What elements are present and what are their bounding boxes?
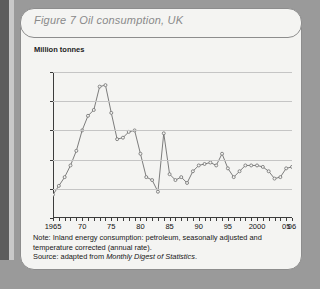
x-tick-label: 2000 [249, 222, 266, 231]
x-tick-label: 1965 [45, 222, 62, 231]
x-tick-mark [146, 218, 147, 221]
x-tick-mark [222, 218, 223, 221]
gridline [53, 101, 292, 102]
x-tick-mark [88, 218, 89, 221]
x-tick-mark [205, 218, 206, 221]
x-tick-label: 95 [224, 222, 232, 231]
oil-consumption-line-series [53, 72, 292, 218]
y-tick-mark [50, 189, 53, 190]
y-axis-label: Million tonnes [34, 45, 84, 54]
chart-plot-area: 60708090100110196570758085909520000506 [53, 72, 292, 218]
x-tick-label: 70 [78, 222, 86, 231]
x-tick-mark [228, 218, 229, 221]
x-tick-mark [129, 218, 130, 221]
x-tick-mark [181, 218, 182, 221]
gridline [53, 160, 292, 161]
x-tick-mark [59, 218, 60, 221]
x-tick-mark [135, 218, 136, 221]
x-tick-label: 06 [288, 222, 296, 231]
x-tick-mark [275, 218, 276, 221]
gridline [53, 130, 292, 131]
x-tick-mark [193, 218, 194, 221]
x-tick-mark [152, 218, 153, 221]
source-title: Monthly Digest of Statistics [106, 252, 195, 261]
x-tick-mark [94, 218, 95, 221]
x-tick-mark [257, 218, 258, 221]
page-gutter [0, 0, 9, 260]
source-line: Source: adapted from Monthly Digest of S… [33, 252, 295, 262]
x-tick-label: 90 [195, 222, 203, 231]
x-tick-mark [234, 218, 235, 221]
x-tick-label: 85 [165, 222, 173, 231]
x-tick-mark [280, 218, 281, 221]
x-tick-label: 75 [107, 222, 115, 231]
x-tick-mark [210, 218, 211, 221]
figure-title: Figure 7 Oil consumption, UK [34, 14, 284, 26]
page-gutter-inner [9, 0, 14, 260]
x-tick-mark [65, 218, 66, 221]
x-tick-mark [117, 218, 118, 221]
x-tick-mark [240, 218, 241, 221]
x-tick-mark [269, 218, 270, 221]
x-tick-mark [105, 218, 106, 221]
x-tick-mark [170, 218, 171, 221]
x-tick-mark [175, 218, 176, 221]
y-tick-mark [50, 101, 53, 102]
note-text: Note: Inland energy consumption: petrole… [33, 233, 295, 252]
x-tick-mark [263, 218, 264, 221]
source-suffix: . [195, 252, 197, 261]
y-tick-mark [50, 130, 53, 131]
x-tick-mark [53, 218, 54, 221]
x-tick-mark [100, 218, 101, 221]
x-tick-mark [123, 218, 124, 221]
x-tick-label: 80 [136, 222, 144, 231]
x-tick-mark [140, 218, 141, 221]
x-tick-mark [216, 218, 217, 221]
x-tick-mark [70, 218, 71, 221]
x-tick-mark [111, 218, 112, 221]
x-tick-mark [292, 218, 293, 221]
x-tick-mark [251, 218, 252, 221]
x-tick-mark [199, 218, 200, 221]
x-tick-mark [286, 218, 287, 221]
y-tick-mark [50, 72, 53, 73]
x-tick-mark [76, 218, 77, 221]
y-tick-mark [50, 160, 53, 161]
x-tick-mark [164, 218, 165, 221]
x-tick-mark [245, 218, 246, 221]
x-tick-mark [158, 218, 159, 221]
x-tick-mark [187, 218, 188, 221]
source-prefix: Source: adapted from [33, 252, 106, 261]
x-tick-mark [82, 218, 83, 221]
figure-note: Note: Inland energy consumption: petrole… [33, 233, 295, 262]
gridline [53, 189, 292, 190]
gridline [53, 72, 292, 73]
